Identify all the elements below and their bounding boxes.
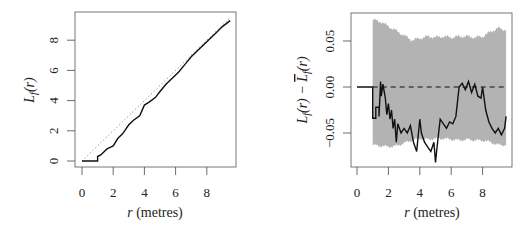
figure: 02468 02468 r (metres) Lf(r) −0.050.000.…	[0, 0, 526, 229]
x-tick-label: 4	[417, 185, 424, 200]
x-tick-label: 6	[172, 185, 179, 200]
y-tick-label: 4	[46, 97, 61, 104]
x-tick-label: 2	[385, 185, 392, 200]
left-x-axis: 02468	[79, 167, 210, 200]
right-panel: −0.050.000.05 02468 r (metres) Lf(r) − L…	[295, 13, 512, 221]
x-tick-label: 0	[79, 185, 86, 200]
y-tick-label: 8	[46, 37, 61, 44]
y-tick-label: 0	[46, 158, 61, 165]
right-y-axis: −0.050.000.05	[322, 30, 351, 148]
x-tick-label: 0	[354, 185, 361, 200]
right-x-axis: 02468	[354, 167, 486, 200]
theoretical-line	[82, 18, 230, 161]
y-tick-label: 2	[46, 128, 61, 135]
left-x-axis-title: r (metres)	[127, 205, 183, 221]
left-y-axis: 02468	[46, 37, 75, 164]
y-tick-label: 0.05	[322, 30, 337, 53]
y-tick-label: −0.05	[322, 118, 337, 148]
x-tick-label: 6	[448, 185, 455, 200]
right-y-axis-title: Lf(r) − Lf(r)	[295, 56, 312, 125]
left-panel: 02468 02468 r (metres) Lf(r)	[22, 12, 236, 221]
left-plot-frame	[75, 12, 236, 167]
left-y-axis-title: Lf(r)	[22, 77, 39, 104]
y-tick-label: 0.00	[322, 76, 337, 99]
x-tick-label: 8	[479, 185, 486, 200]
x-tick-label: 4	[141, 185, 148, 200]
x-tick-label: 2	[110, 185, 117, 200]
x-tick-label: 8	[204, 185, 211, 200]
right-x-axis-title: r (metres)	[404, 205, 460, 221]
y-tick-label: 6	[46, 67, 61, 74]
